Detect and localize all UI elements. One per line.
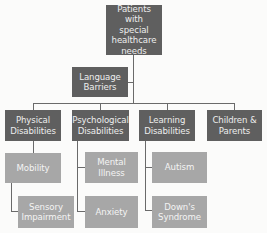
connector-mental-illness-branch bbox=[77, 167, 85, 168]
connector-downs-branch bbox=[145, 210, 152, 211]
connector-root-trunk bbox=[133, 55, 134, 103]
connector-mobility-to-sensory bbox=[11, 183, 12, 212]
root-node-patients-special-needs: Patients with special healthcare needs bbox=[106, 5, 162, 55]
connector-drop-children bbox=[234, 103, 235, 110]
connector-learning-trunk bbox=[145, 141, 146, 211]
connector-anxiety-branch bbox=[77, 211, 85, 212]
connector-drop-learning bbox=[167, 103, 168, 110]
connector-autism-branch bbox=[145, 167, 152, 168]
connector-psychological-trunk bbox=[77, 141, 78, 212]
node-learning-disabilities: Learning Disabilities bbox=[139, 110, 195, 141]
node-mobility: Mobility bbox=[5, 153, 61, 183]
node-autism: Autism bbox=[152, 152, 207, 183]
node-physical-disabilities: Physical Disabilities bbox=[5, 110, 61, 141]
node-mental-illness: Mental Illness bbox=[85, 152, 138, 183]
connector-category-bus bbox=[33, 103, 235, 104]
node-anxiety: Anxiety bbox=[85, 196, 138, 228]
connector-physical-to-mobility bbox=[33, 141, 34, 153]
node-children-parents: Children & Parents bbox=[207, 110, 262, 141]
node-language-barriers: Language Barriers bbox=[72, 67, 128, 97]
connector-language-barriers bbox=[128, 82, 133, 83]
node-psychological-disabilities: Psychological Disabilities bbox=[72, 110, 129, 141]
connector-drop-physical bbox=[33, 103, 34, 110]
connector-drop-psychological bbox=[100, 103, 101, 110]
connector-sensory-branch bbox=[11, 211, 18, 212]
node-sensory-impairment: Sensory Impairment bbox=[18, 196, 74, 228]
node-downs-syndrome: Down's Syndrome bbox=[152, 196, 207, 228]
